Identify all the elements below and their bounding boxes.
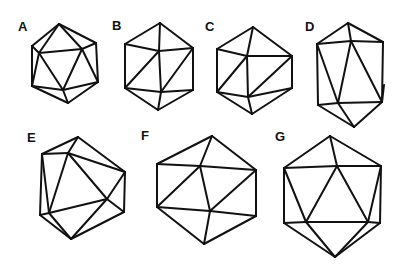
polyhedron-edge [338,103,354,127]
polyhedron-edge [78,137,125,172]
polyhedron-edge [200,166,256,170]
polyhedron-edge [71,212,124,239]
polyhedron-g-wireframe [284,136,381,257]
polyhedron-edge [42,153,68,154]
polyhedron-edge [159,23,160,51]
polyhedron-edge [49,199,107,213]
polyhedron-edge [368,166,381,222]
polyhedron-edge [59,24,96,43]
polyhedron-edge [368,222,380,223]
polyhedron-edge [212,136,256,170]
polyhedron-edge [125,44,159,51]
polyhedron-edge [210,170,256,211]
polyhedron-edge [247,27,253,56]
polyhedron-edge [49,153,68,213]
polyhedron-edge [32,53,39,86]
polyhedron-edge [160,23,193,48]
polyhedron-edge [107,199,124,212]
polyhedron-edge [217,27,253,49]
polyhedron-edge [217,56,247,92]
polyhedron-edge [39,49,82,53]
polyhedron-edge [40,154,42,215]
polyhedron-edge [158,92,161,110]
panel-label-c: C [205,19,215,34]
polyhedron-edge [39,53,63,90]
polyhedron-edge [42,154,49,213]
polyhedron-edge [351,41,382,102]
panel-e: E [27,130,125,239]
panel-label-e: E [27,130,36,145]
polyhedron-edge [217,49,247,56]
polyhedron-edge [284,136,330,168]
polyhedron-edge [284,166,337,168]
polyhedron-e-wireframe [40,137,125,239]
polyhedron-d-wireframe [317,23,384,127]
polyhedron-edge [125,23,160,44]
polyhedron-edge [284,222,306,223]
polyhedron-edge [49,213,71,239]
polyhedron-edge [210,211,256,216]
panel-a: A [18,19,98,103]
polyhedron-edge [253,27,292,56]
polyhedron-edge [335,222,368,257]
polyhedron-edge [161,48,193,92]
polyhedron-edge [351,41,383,42]
polyhedron-edge [380,166,381,223]
polyhedron-edge [157,207,204,244]
polyhedron-edge [59,24,82,49]
panel-f: F [141,128,256,244]
polyhedron-edge [330,136,381,166]
polyhedron-edge [96,43,98,82]
panel-label-g: G [275,129,285,144]
polyhedron-edge [157,136,212,164]
polyhedron-edge [159,51,161,92]
polyhedron-edge [338,102,382,103]
polyhedron-edge [247,56,248,97]
polyhedron-edge [124,172,125,212]
polyhedron-edge [248,56,292,97]
polyhedron-edge [348,23,383,42]
polyhedron-edge [125,51,159,88]
polyhedron-edge [107,172,125,199]
polyhedron-edge [158,90,193,110]
polyhedron-f-wireframe [157,136,256,244]
polyhedron-edge [204,211,210,244]
polyhedron-edge [337,166,368,222]
panel-g: G [275,129,381,257]
polyhedron-edge [317,44,338,103]
polyhedra-figure: A B C D E F G [0,0,404,272]
polyhedron-edge [338,41,351,103]
panel-label-b: B [112,18,121,33]
polyhedron-edge [354,102,382,127]
polyhedron-edge [159,48,193,51]
panel-label-f: F [141,128,149,143]
polyhedron-edge [318,105,354,127]
polyhedron-edge [204,216,256,244]
panel-d: D [305,19,384,127]
polyhedron-edge [40,213,49,215]
polyhedron-edge [63,49,82,90]
polyhedron-edge [335,223,380,257]
polyhedron-b-wireframe [125,23,193,110]
polyhedron-edge [40,215,71,239]
panel-label-a: A [18,19,28,34]
polyhedron-edge [348,23,351,41]
polyhedron-edge [82,43,96,49]
polyhedron-c-wireframe [217,27,292,114]
polyhedron-edge [71,199,107,239]
polyhedron-edge [284,168,306,222]
panel-b: B [112,18,193,110]
panel-c: C [205,19,292,114]
polyhedron-edge [157,207,210,211]
polyhedron-edge [200,166,210,211]
polyhedron-a-wireframe [32,24,98,103]
polyhedron-edge [157,164,200,166]
polyhedron-edge [318,103,338,105]
polyhedron-edge [306,166,337,222]
panel-label-d: D [305,19,314,34]
polyhedron-edge [284,223,335,257]
polyhedron-edge [32,46,39,53]
polyhedron-edge [157,166,200,207]
polyhedron-edge [317,44,318,105]
